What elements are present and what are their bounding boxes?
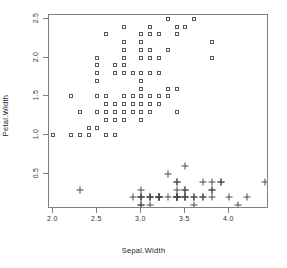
data-point xyxy=(166,17,170,21)
data-point xyxy=(95,126,99,130)
data-point xyxy=(191,194,198,201)
data-point xyxy=(157,32,161,36)
y-tick-label: 1.0 xyxy=(32,129,39,140)
data-point xyxy=(139,94,143,98)
data-point xyxy=(138,194,145,201)
data-point xyxy=(148,71,152,75)
data-point xyxy=(200,194,207,201)
data-point xyxy=(148,110,152,114)
data-point xyxy=(113,63,117,67)
data-point xyxy=(138,186,145,193)
data-point xyxy=(131,102,135,106)
data-point xyxy=(138,202,145,208)
data-point xyxy=(122,118,126,122)
data-point xyxy=(95,126,99,130)
data-point xyxy=(244,194,251,201)
data-point xyxy=(69,94,73,98)
x-tick-label: 2.0 xyxy=(47,215,58,222)
data-point xyxy=(148,102,152,106)
data-point xyxy=(122,71,126,75)
x-tick-label: 3.5 xyxy=(179,215,190,222)
scatter-plot: 2.02.53.03.54.0 0.51.01.52.02.5 Sepal.Wi… xyxy=(0,0,287,268)
data-point xyxy=(113,63,117,67)
data-point xyxy=(156,194,163,201)
data-point xyxy=(95,94,99,98)
data-point xyxy=(157,94,161,98)
data-point xyxy=(69,133,73,137)
data-point xyxy=(87,126,91,130)
data-point xyxy=(139,32,143,36)
data-point xyxy=(147,194,154,201)
y-tick-label: 2.0 xyxy=(32,51,39,62)
data-point xyxy=(139,94,143,98)
data-point xyxy=(157,32,161,36)
data-point xyxy=(175,32,179,36)
data-point xyxy=(129,194,136,201)
data-point xyxy=(182,194,189,201)
data-point xyxy=(139,71,143,75)
data-point xyxy=(104,133,108,137)
data-point xyxy=(113,133,117,137)
data-point xyxy=(131,71,135,75)
data-point xyxy=(217,178,224,185)
data-point xyxy=(147,194,154,201)
data-point xyxy=(138,194,145,201)
data-point xyxy=(139,110,143,114)
data-point xyxy=(104,102,108,106)
data-point xyxy=(138,202,145,208)
data-point xyxy=(166,87,170,91)
data-point xyxy=(139,71,143,75)
data-point xyxy=(78,110,82,114)
data-point xyxy=(113,110,117,114)
data-point xyxy=(175,25,179,29)
data-point xyxy=(122,110,126,114)
data-point xyxy=(122,56,126,60)
data-point xyxy=(131,110,135,114)
data-point xyxy=(156,194,163,201)
data-point xyxy=(78,110,82,114)
data-point xyxy=(139,79,143,83)
data-point xyxy=(139,48,143,52)
data-point xyxy=(156,194,163,201)
data-point xyxy=(122,56,126,60)
data-point xyxy=(139,102,143,106)
x-tick-label: 2.5 xyxy=(91,215,102,222)
data-point xyxy=(139,71,143,75)
data-point xyxy=(139,87,143,91)
data-point xyxy=(157,71,161,75)
data-point xyxy=(122,102,126,106)
data-point xyxy=(122,94,126,98)
data-point xyxy=(173,178,180,185)
data-point xyxy=(139,87,143,91)
data-point xyxy=(173,194,180,201)
data-point xyxy=(104,118,108,122)
data-point xyxy=(95,63,99,67)
data-point xyxy=(261,178,268,185)
data-point xyxy=(122,94,126,98)
data-point xyxy=(76,186,83,193)
data-point xyxy=(122,25,126,29)
data-point xyxy=(148,102,152,106)
data-point xyxy=(208,186,215,193)
data-point xyxy=(235,202,242,208)
data-point xyxy=(104,94,108,98)
data-point xyxy=(104,32,108,36)
data-point xyxy=(78,133,82,137)
data-point xyxy=(139,56,143,60)
data-point xyxy=(122,94,126,98)
data-point xyxy=(166,48,170,52)
data-point xyxy=(156,194,163,201)
data-point xyxy=(157,102,161,106)
data-point xyxy=(69,94,73,98)
x-tick-mark xyxy=(52,208,53,213)
y-tick-mark xyxy=(43,95,48,96)
data-point xyxy=(183,25,187,29)
data-point xyxy=(139,118,143,122)
data-point xyxy=(148,94,152,98)
data-point xyxy=(182,194,189,201)
data-point xyxy=(173,194,180,201)
data-point xyxy=(157,32,161,36)
y-tick-mark xyxy=(43,134,48,135)
data-point xyxy=(173,194,180,201)
data-point xyxy=(148,25,152,29)
